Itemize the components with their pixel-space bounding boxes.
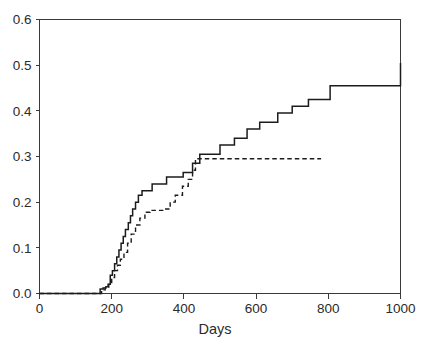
axis-frame xyxy=(40,20,401,294)
y-tick-label: 0.0 xyxy=(13,286,32,301)
x-tick-label: 400 xyxy=(173,301,196,316)
x-tick-label: 600 xyxy=(245,301,268,316)
cumulative-incidence-chart: 0.00.10.20.30.40.50.6 02004006008001000 … xyxy=(0,0,430,349)
y-tick-label: 0.2 xyxy=(13,195,32,210)
y-axis-ticks xyxy=(36,20,40,294)
x-tick-label: 800 xyxy=(317,301,340,316)
x-tick-label: 0 xyxy=(36,301,44,316)
y-tick-label: 0.6 xyxy=(13,12,32,27)
series-solid-curve xyxy=(40,63,401,294)
y-axis-tick-labels: 0.00.10.20.30.40.50.6 xyxy=(13,12,32,301)
plot-svg: 0.00.10.20.30.40.50.6 02004006008001000 … xyxy=(0,0,430,349)
y-tick-label: 0.1 xyxy=(13,241,32,256)
x-axis-tick-labels: 02004006008001000 xyxy=(36,301,416,316)
x-axis-title: Days xyxy=(198,321,231,337)
x-tick-label: 1000 xyxy=(385,301,415,316)
x-tick-label: 200 xyxy=(100,301,123,316)
y-tick-label: 0.4 xyxy=(13,104,32,119)
y-tick-label: 0.3 xyxy=(13,149,32,164)
series-dashed-curve xyxy=(40,159,322,294)
y-tick-label: 0.5 xyxy=(13,58,32,73)
series-group xyxy=(40,63,401,294)
